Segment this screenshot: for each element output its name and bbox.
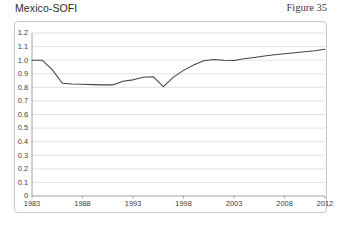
y-axis-tick-label: 0.8 xyxy=(8,83,28,92)
y-axis-tick-label: 1.0 xyxy=(8,56,28,65)
y-axis-tick-label: 0.1 xyxy=(8,178,28,187)
x-axis-tick-label: 1998 xyxy=(169,199,199,208)
x-axis-tick-label: 2003 xyxy=(219,199,249,208)
x-axis-tick-label: 1988 xyxy=(68,199,98,208)
y-axis-tick-label: 0.2 xyxy=(8,164,28,173)
gridlines xyxy=(32,33,325,182)
y-axis-tick-label: 0.9 xyxy=(8,69,28,78)
y-axis-tick-label: 0.5 xyxy=(8,123,28,132)
y-axis-tick-label: 0.4 xyxy=(8,137,28,146)
x-axis-tick-label: 2012 xyxy=(310,199,339,208)
y-axis-tick-label: 0.7 xyxy=(8,96,28,105)
data-series-line xyxy=(32,49,325,86)
y-axis-tick-label: 0.3 xyxy=(8,151,28,160)
x-axis-tick-label: 1983 xyxy=(17,199,47,208)
chart-plot-area: 1.21.11.00.90.80.70.60.50.40.30.20.10 19… xyxy=(0,0,339,226)
x-axis-tick-label: 1993 xyxy=(118,199,148,208)
figure-page: Mexico-SOFI Figure 35 1.21.11.00.90.80.7… xyxy=(0,0,339,226)
y-axis-tick-label: 1.2 xyxy=(8,28,28,37)
line-chart-svg xyxy=(0,0,339,226)
y-axis-tick-label: 0.6 xyxy=(8,110,28,119)
y-axis-tick-label: 1.1 xyxy=(8,42,28,51)
x-axis-tick-label: 2008 xyxy=(270,199,300,208)
